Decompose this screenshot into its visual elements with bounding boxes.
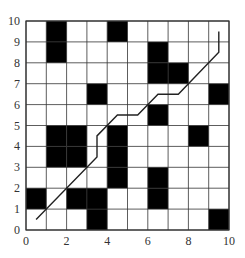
grid-map-plot: 0246810 012345678910 [0,0,245,258]
y-tick-label: 6 [14,98,20,112]
y-axis-ticks: 012345678910 [8,14,20,237]
obstacle-cell [148,167,168,188]
obstacle-cell [46,146,66,167]
x-axis-ticks: 0246810 [23,234,235,248]
obstacle-cell [26,188,46,209]
y-tick-label: 2 [14,181,20,195]
obstacle-cell [107,146,127,167]
obstacle-cell [148,63,168,84]
y-tick-label: 9 [14,35,20,49]
obstacle-cell [67,126,87,147]
y-tick-label: 10 [8,14,20,28]
obstacle-cell [148,188,168,209]
obstacle-cell [209,209,229,230]
grid-path-diagram: 0246810 012345678910 [0,0,245,258]
obstacle-cell [107,167,127,188]
obstacle-cell [107,21,127,42]
y-tick-label: 8 [14,56,20,70]
obstacle-cell [148,42,168,63]
x-tick-label: 2 [64,234,70,248]
obstacle-cell [87,188,107,209]
y-tick-label: 7 [14,77,20,91]
obstacle-cell [209,84,229,105]
obstacle-cell [87,209,107,230]
x-tick-label: 10 [223,234,235,248]
obstacle-cell [67,188,87,209]
x-tick-label: 6 [145,234,151,248]
obstacle-cell [148,105,168,126]
x-tick-label: 8 [185,234,191,248]
y-tick-label: 1 [14,202,20,216]
obstacle-cell [188,126,208,147]
y-tick-label: 0 [14,223,20,237]
obstacle-cell [67,146,87,167]
obstacle-cell [46,126,66,147]
obstacle-cell [87,84,107,105]
y-tick-label: 4 [14,139,20,153]
obstacle-cell [46,42,66,63]
y-tick-label: 3 [14,160,20,174]
y-tick-label: 5 [14,119,20,133]
obstacle-cell [168,63,188,84]
obstacle-cell [107,126,127,147]
x-tick-label: 0 [23,234,29,248]
x-tick-label: 4 [104,234,110,248]
obstacle-cell [46,21,66,42]
